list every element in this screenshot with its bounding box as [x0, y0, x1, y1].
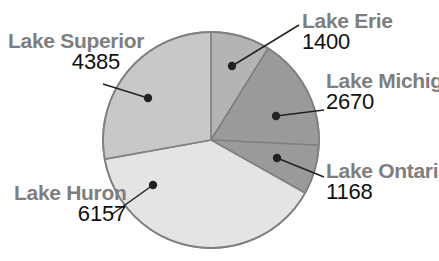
leader-dot-lake-ontario — [273, 154, 281, 162]
slice-label-value: 6157 — [14, 203, 126, 225]
slice-label-lake-erie: Lake Erie 1400 — [302, 10, 434, 54]
slice-label-lake-michigan: Lake Michigan 2670 — [326, 70, 438, 114]
slice-label-name: Lake Superior — [8, 30, 120, 51]
pie-chart-figure: Lake Superior 4385 Lake Huron 6157 Lake … — [0, 0, 439, 261]
slice-label-name: Lake Erie — [302, 10, 434, 31]
slice-label-name: Lake Ontario — [326, 160, 438, 181]
leader-dot-lake-superior — [144, 94, 152, 102]
slice-label-value: 1168 — [326, 181, 438, 203]
slice-label-lake-huron: Lake Huron 6157 — [14, 182, 126, 226]
leader-dot-lake-erie — [228, 62, 236, 70]
pie-slices-group — [103, 32, 319, 248]
slice-label-value: 4385 — [8, 51, 120, 73]
slice-label-lake-ontario: Lake Ontario 1168 — [326, 160, 438, 204]
slice-label-name: Lake Huron — [14, 182, 126, 203]
leader-dot-lake-michigan — [272, 112, 280, 120]
slice-label-value: 1400 — [302, 31, 434, 53]
leader-dot-lake-huron — [149, 181, 157, 189]
slice-label-name: Lake Michigan — [326, 70, 438, 91]
slice-label-value: 2670 — [326, 91, 438, 113]
slice-label-lake-superior: Lake Superior 4385 — [8, 30, 120, 74]
